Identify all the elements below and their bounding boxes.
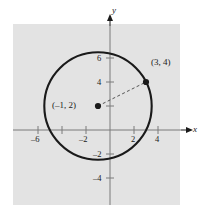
center-point-marker xyxy=(95,103,101,109)
y-tick-label-4: 4 xyxy=(97,78,101,87)
circle-point-label: (3, 4) xyxy=(151,58,171,67)
x-tick-label-4: 4 xyxy=(155,135,159,144)
x-axis xyxy=(13,127,193,133)
circle-graph-figure: x y –6 –2 2 4 6 4 –2 –4 (–1, 2) (3, 4) xyxy=(0,0,205,216)
circle-point-marker xyxy=(143,79,149,85)
y-tick-label-neg4: –4 xyxy=(93,174,102,183)
x-tick-label-neg6: –6 xyxy=(31,135,40,144)
y-tick-label-6: 6 xyxy=(97,54,101,63)
center-point-label: (–1, 2) xyxy=(52,101,76,110)
radius-dashed-line xyxy=(98,82,146,106)
y-axis xyxy=(107,14,113,205)
graph-canvas xyxy=(0,0,205,216)
x-tick-label-2: 2 xyxy=(131,135,135,144)
x-tick-label-neg2: –2 xyxy=(79,135,88,144)
x-axis-label: x xyxy=(193,125,197,134)
y-axis-label: y xyxy=(112,6,116,15)
y-tick-label-neg2: –2 xyxy=(93,150,102,159)
